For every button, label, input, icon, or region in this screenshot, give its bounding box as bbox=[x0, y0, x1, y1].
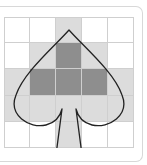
spade-outline-icon bbox=[4, 17, 134, 148]
